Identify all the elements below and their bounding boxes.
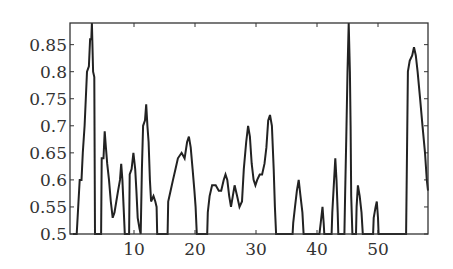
y-tick-label: 0.8	[40, 62, 67, 82]
y-tick-label: 0.6	[40, 170, 67, 190]
x-tick-label: 50	[367, 239, 389, 259]
data-series-line	[73, 23, 428, 234]
y-tick-label: 0.75	[29, 89, 67, 109]
x-tick-label: 30	[245, 239, 267, 259]
x-tick-label: 40	[306, 239, 328, 259]
x-tick-label: 20	[184, 239, 206, 259]
y-tick-label: 0.5	[40, 224, 67, 244]
y-tick-label: 0.7	[40, 116, 67, 136]
line-chart: 0.50.550.60.650.70.750.80.85 1020304050	[0, 0, 453, 269]
y-tick-label: 0.85	[29, 35, 67, 55]
y-tick-label: 0.55	[29, 197, 67, 217]
x-tick-label: 10	[123, 239, 145, 259]
y-tick-label: 0.65	[29, 143, 67, 163]
